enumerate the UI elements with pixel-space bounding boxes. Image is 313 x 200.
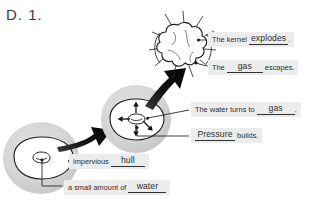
answer-blank-pressure[interactable]: Pressure bbox=[195, 131, 235, 141]
label-prefix: impervious bbox=[73, 157, 111, 166]
answer-blank-water-turns[interactable]: gas bbox=[257, 105, 295, 115]
label-impervious-hull: impervious hull bbox=[69, 154, 149, 169]
answer-blank-hull[interactable]: hull bbox=[111, 157, 145, 167]
label-kernel-explodes: The kernel explodes. bbox=[208, 32, 294, 47]
label-small-amount-of-water: a small amount of water bbox=[64, 180, 170, 195]
label-prefix: The kernel bbox=[212, 35, 249, 44]
worksheet-page: D. 1. bbox=[0, 0, 313, 200]
label-prefix: The water turns to bbox=[195, 105, 257, 114]
label-water-turns-to-gas: The water turns to gas. bbox=[191, 102, 301, 117]
label-gas-escapes: The gas escapes. bbox=[208, 60, 298, 75]
stage-3-popped-kernel bbox=[149, 11, 216, 78]
label-suffix: escapes. bbox=[263, 63, 295, 72]
label-suffix: builds. bbox=[235, 131, 258, 140]
stage-2-heated-kernel bbox=[101, 85, 189, 153]
label-prefix: The bbox=[212, 63, 227, 72]
answer-blank-water-amount[interactable]: water bbox=[128, 183, 166, 193]
popcorn-diagram-art bbox=[0, 0, 313, 200]
label-prefix: a small amount of bbox=[68, 183, 128, 192]
label-suffix: . bbox=[295, 105, 297, 114]
label-pressure-builds: Pressure builds. bbox=[191, 128, 262, 143]
answer-blank-explodes[interactable]: explodes bbox=[249, 35, 288, 45]
answer-blank-gas-escapes[interactable]: gas bbox=[227, 63, 263, 73]
label-suffix: . bbox=[288, 35, 290, 44]
